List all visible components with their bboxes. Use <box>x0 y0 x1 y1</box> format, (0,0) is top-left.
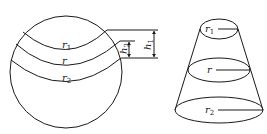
frustum-label-r: r <box>207 64 213 75</box>
frustum-label-r2: r2 <box>205 104 214 117</box>
sphere-figure: r1 r r2 h2 h1 <box>10 16 158 128</box>
sphere-label-r: r <box>62 55 68 66</box>
sphere-label-r2: r2 <box>62 72 71 85</box>
sphere-label-r1: r1 <box>62 39 71 52</box>
frustum-left-edge <box>175 29 200 110</box>
frustum-label-r1: r1 <box>205 23 214 36</box>
diagram-canvas: r1 r r2 h2 h1 r1 r r2 <box>0 0 267 134</box>
label-h1: h1 <box>142 39 155 50</box>
frustum-figure: r1 r r2 <box>175 19 263 123</box>
